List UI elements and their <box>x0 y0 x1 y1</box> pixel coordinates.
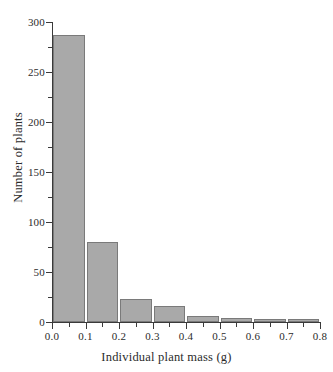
x-tick-major <box>119 323 120 329</box>
x-axis-title: Individual plant mass (g) <box>0 350 333 365</box>
x-tick-major <box>153 323 154 329</box>
x-tick-major <box>86 323 87 329</box>
x-tick-major <box>253 323 254 329</box>
x-tick-major <box>287 323 288 329</box>
y-tick-label: 0 <box>39 317 45 328</box>
histogram-figure: 050100150200250300 0.00.10.20.30.40.50.6… <box>0 0 333 372</box>
x-tick-minor <box>203 323 204 327</box>
histogram-bar <box>53 35 85 322</box>
x-tick-label: 0.7 <box>272 331 302 342</box>
y-tick-label: 250 <box>28 67 45 78</box>
histogram-bar <box>187 316 219 322</box>
histogram-bar <box>120 299 152 322</box>
histogram-bar <box>87 242 119 322</box>
x-tick-major <box>52 323 53 329</box>
y-tick-label: 100 <box>28 217 45 228</box>
x-tick-minor <box>236 323 237 327</box>
y-axis-title: Number of plants <box>11 83 26 233</box>
x-tick-label: 0.5 <box>205 331 235 342</box>
x-tick-minor <box>136 323 137 327</box>
x-tick-label: 0.6 <box>238 331 268 342</box>
x-tick-major <box>220 323 221 329</box>
x-tick-label: 0.8 <box>305 331 333 342</box>
plot-area <box>52 22 320 322</box>
histogram-bar <box>154 306 186 322</box>
histogram-bar <box>288 319 320 322</box>
x-tick-major <box>186 323 187 329</box>
histogram-bar <box>254 319 286 322</box>
histogram-bar <box>221 318 253 322</box>
y-tick-label: 300 <box>28 17 45 28</box>
x-tick-minor <box>69 323 70 327</box>
y-tick-label: 50 <box>34 267 45 278</box>
x-tick-label: 0.3 <box>138 331 168 342</box>
x-tick-minor <box>270 323 271 327</box>
x-tick-label: 0.4 <box>171 331 201 342</box>
x-tick-minor <box>303 323 304 327</box>
x-tick-minor <box>169 323 170 327</box>
y-tick-label: 200 <box>28 117 45 128</box>
x-tick-label: 0.2 <box>104 331 134 342</box>
x-tick-label: 0.0 <box>37 331 67 342</box>
y-tick-label: 150 <box>28 167 45 178</box>
x-tick-label: 0.1 <box>71 331 101 342</box>
x-tick-minor <box>102 323 103 327</box>
x-tick-major <box>320 323 321 329</box>
